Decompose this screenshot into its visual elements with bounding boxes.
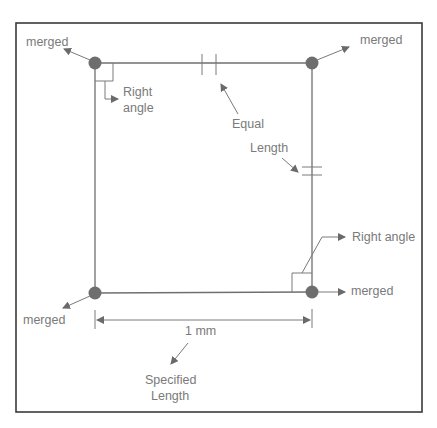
merged-arrow-top-right [317, 47, 349, 60]
label-specified-line2: Length [151, 389, 189, 403]
merged-arrow-bottom-left [63, 296, 90, 308]
label-right-angle-top-line2: angle [123, 101, 154, 115]
label-merged-top-right: merged [360, 33, 402, 47]
label-length: Length [250, 141, 288, 155]
label-merged-bottom-left: merged [23, 313, 65, 327]
constraint-diagram: merged merged merged merged Right angle … [0, 0, 437, 428]
label-right-angle-top-line1: Right [123, 85, 153, 99]
label-equal: Equal [232, 117, 264, 131]
corner-point-top-left [89, 57, 102, 70]
label-dimension: 1 mm [185, 324, 216, 338]
length-pointer-arrow [282, 158, 298, 172]
label-merged-top-left: merged [26, 35, 68, 49]
merged-arrow-top-left [64, 49, 90, 60]
equal-pointer-arrow [221, 84, 238, 114]
corner-point-bottom-left [89, 287, 102, 300]
right-angle-top-leader [105, 81, 118, 99]
corner-point-top-right [306, 57, 319, 70]
corner-point-bottom-right [306, 286, 319, 299]
diagram-frame [16, 23, 422, 412]
equal-marker-icon [202, 54, 216, 75]
label-specified-line1: Specified [145, 373, 196, 387]
label-right-angle-bottom: Right angle [352, 230, 415, 244]
right-angle-bottom-leader [302, 237, 345, 273]
bottom-edge [95, 292, 312, 293]
label-merged-bottom-right: merged [351, 284, 393, 298]
specified-length-pointer-arrow [171, 343, 188, 364]
